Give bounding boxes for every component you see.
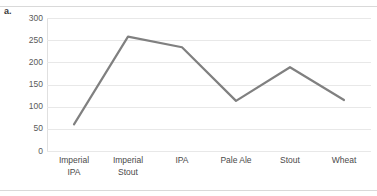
x-axis-tick-labels: Imperial IPAImperial StoutIPAPale AleSto… [47,155,371,189]
y-axis-tick-label: 0 [13,147,43,156]
x-axis-tick-label: Wheat [332,155,357,167]
y-axis-tick-label: 200 [13,58,43,67]
y-axis-tick-label: 50 [13,124,43,133]
x-axis-tick-label: Stout [280,155,300,167]
series-line [74,37,344,125]
x-axis-tick-label: IPA [175,155,188,167]
frame-border-top [0,6,377,7]
gridline [47,151,371,152]
y-axis-tick-labels: 300250200150100500 [10,18,43,151]
x-axis-tick-label: Imperial Stout [113,155,143,178]
x-axis-tick-label: Pale Ale [220,155,251,167]
figure-label: a. [4,6,12,16]
y-axis-tick-label: 100 [13,102,43,111]
y-axis-tick-label: 150 [13,80,43,89]
y-axis-tick-label: 250 [13,36,43,45]
chart-screenshot: a. 300250200150100500 Imperial IPAImperi… [0,0,377,196]
plot-area [47,18,371,151]
line-series [47,18,371,151]
x-axis-tick-label: Imperial IPA [59,155,89,178]
y-axis-tick-label: 300 [13,14,43,23]
frame-border-bottom [0,190,377,191]
